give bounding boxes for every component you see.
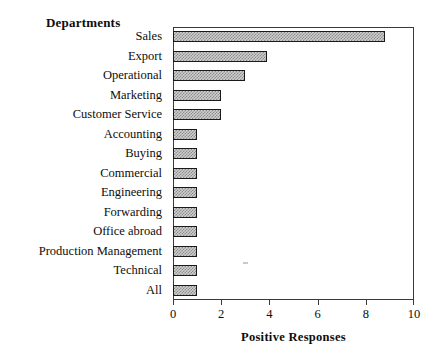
bar — [173, 285, 197, 296]
x-tick-mark — [173, 300, 174, 305]
category-label: All — [146, 281, 162, 301]
category-label-list: SalesExportOperationalMarketingCustomer … — [0, 27, 168, 300]
bar-row — [173, 183, 414, 203]
bars-layer — [173, 27, 414, 300]
x-tick-mark — [269, 300, 270, 305]
category-label: Production Management — [39, 242, 162, 262]
x-tick-mark — [221, 300, 222, 305]
bar-row — [173, 27, 414, 47]
bar — [173, 129, 197, 140]
x-tick-mark — [366, 300, 367, 305]
x-tick-label: 4 — [266, 306, 272, 322]
category-label: Commercial — [100, 164, 162, 184]
scan-artifact-speck — [243, 262, 248, 264]
bar-row — [173, 66, 414, 86]
x-tick-mark — [413, 300, 414, 305]
category-label: Sales — [136, 27, 162, 47]
bar-row — [173, 261, 414, 281]
bar-row — [173, 242, 414, 262]
bar-row — [173, 281, 414, 301]
category-label: Customer Service — [73, 105, 162, 125]
category-label: Export — [128, 47, 162, 67]
category-label: Marketing — [110, 86, 162, 106]
bar — [173, 246, 197, 257]
x-axis-title: Positive Responses — [173, 330, 414, 345]
category-label: Accounting — [104, 125, 162, 145]
category-label: Operational — [103, 66, 162, 86]
x-tick-label: 10 — [408, 306, 421, 322]
bar — [173, 148, 197, 159]
category-label: Forwarding — [104, 203, 162, 223]
category-label: Office abroad — [93, 222, 162, 242]
bar-chart: Departments SalesExportOperationalMarket… — [0, 0, 437, 362]
x-tick-label: 2 — [218, 306, 224, 322]
bar-row — [173, 222, 414, 242]
bar-row — [173, 47, 414, 67]
bar — [173, 109, 221, 120]
x-tick-label: 0 — [170, 306, 176, 322]
bar — [173, 51, 267, 62]
bar — [173, 265, 197, 276]
bar — [173, 31, 385, 42]
bar — [173, 70, 245, 81]
x-tick-mark — [318, 300, 319, 305]
bar-row — [173, 203, 414, 223]
category-label: Buying — [125, 144, 162, 164]
bar-row — [173, 164, 414, 184]
bar — [173, 187, 197, 198]
bar — [173, 226, 197, 237]
x-tick-label: 8 — [363, 306, 369, 322]
category-label: Engineering — [101, 183, 162, 203]
bar-row — [173, 125, 414, 145]
x-tick-label: 6 — [314, 306, 320, 322]
category-label: Technical — [114, 261, 162, 281]
bar-row — [173, 105, 414, 125]
bar-row — [173, 144, 414, 164]
bar — [173, 168, 197, 179]
x-axis-tick-labels: 0246810 — [173, 306, 414, 324]
bar-row — [173, 86, 414, 106]
bar — [173, 90, 221, 101]
bar — [173, 207, 197, 218]
